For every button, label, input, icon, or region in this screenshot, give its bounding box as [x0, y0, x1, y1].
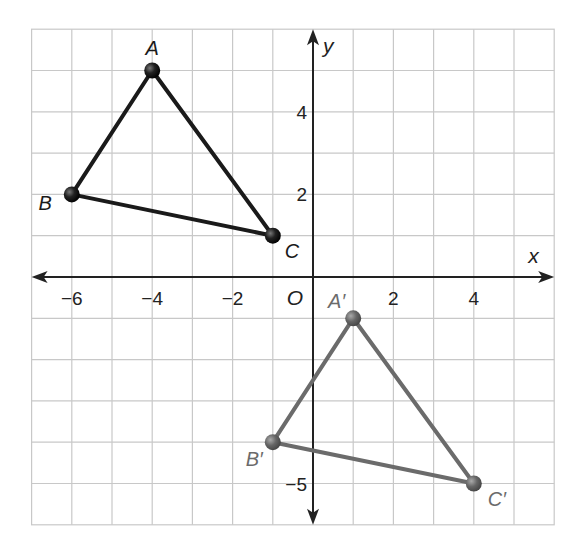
x-tick-label: −2 — [222, 288, 244, 309]
vertex-point — [466, 476, 482, 492]
vertex-label: A′ — [327, 290, 346, 312]
origin-label: O — [287, 286, 303, 309]
x-axis-label: x — [527, 244, 540, 267]
coordinate-plane: xy −6−4−22442−5O ABCA′B′C′ — [0, 0, 573, 547]
y-tick-label: 2 — [296, 184, 307, 205]
vertex-label: A — [145, 37, 159, 59]
x-tick-label: −6 — [61, 288, 83, 309]
vertex-label: B′ — [246, 448, 264, 470]
vertex-point — [265, 228, 281, 244]
y-tick-label: −5 — [285, 474, 307, 495]
vertex-point — [345, 310, 361, 326]
vertex-point — [144, 63, 160, 79]
x-tick-label: −4 — [141, 288, 163, 309]
vertex-label: B — [38, 192, 51, 214]
x-tick-label: 4 — [469, 288, 480, 309]
vertex-point — [265, 434, 281, 450]
vertex-label: C — [285, 240, 300, 262]
vertex-label: C′ — [488, 488, 507, 510]
vertex-point — [64, 186, 80, 202]
y-tick-label: 4 — [296, 102, 307, 123]
x-tick-label: 2 — [388, 288, 399, 309]
y-axis-label: y — [321, 34, 335, 57]
